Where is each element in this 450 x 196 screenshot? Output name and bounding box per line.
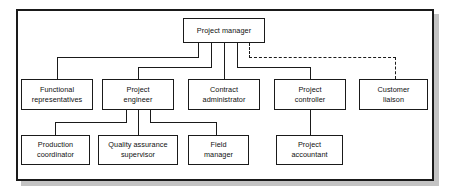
edge-pm-controller-seg-down xyxy=(237,43,238,68)
edge-engineer-field-seg-across xyxy=(150,122,217,123)
edge-pm-customer-dashed-seg-down xyxy=(249,43,250,58)
edge-pm-contract-seg-down xyxy=(224,43,225,79)
node-contract-administrator[interactable]: Contract administrator xyxy=(188,79,260,110)
node-project-accountant[interactable]: Project accountant xyxy=(276,135,343,165)
edge-controller-accountant-seg-down xyxy=(310,110,311,135)
node-project-engineer-label: Project engineer xyxy=(122,85,155,104)
edge-engineer-field-seg-drop xyxy=(216,122,217,135)
edge-engineer-quality-seg-down xyxy=(138,110,139,135)
edge-engineer-production-seg-across xyxy=(55,122,127,123)
edge-pm-engineer-seg-down xyxy=(211,43,212,68)
node-customer-liaison-label: Customer liaison xyxy=(375,85,411,104)
node-project-manager[interactable]: Project manager xyxy=(183,18,265,43)
node-field-manager[interactable]: Field manager xyxy=(188,135,249,165)
edge-pm-customer-dashed-seg-across xyxy=(249,57,396,58)
node-quality-assurance-supervisor[interactable]: Quality assurance supervisor xyxy=(98,135,178,165)
node-project-accountant-label: Project accountant xyxy=(289,140,329,159)
node-field-manager-label: Field manager xyxy=(202,140,235,159)
node-production-coordinator-label: Production coordinator xyxy=(35,140,76,159)
node-project-controller-label: Project controller xyxy=(293,85,328,104)
edge-pm-functional-seg-drop xyxy=(57,57,58,79)
edge-pm-controller-seg-drop xyxy=(310,67,311,79)
org-chart-figure: Project manager Functional representativ… xyxy=(0,0,450,196)
node-production-coordinator[interactable]: Production coordinator xyxy=(21,135,90,165)
node-contract-administrator-label: Contract administrator xyxy=(201,85,248,104)
node-project-manager-label: Project manager xyxy=(195,26,253,36)
node-project-controller[interactable]: Project controller xyxy=(274,79,346,110)
edge-pm-customer-dashed-seg-drop xyxy=(395,57,396,79)
edge-engineer-production-seg-drop xyxy=(55,122,56,135)
node-quality-assurance-supervisor-label: Quality assurance supervisor xyxy=(106,140,169,159)
edge-pm-engineer-seg-across xyxy=(138,67,212,68)
node-functional-representatives-label: Functional representatives xyxy=(30,85,85,104)
edge-pm-controller-seg-across xyxy=(237,67,311,68)
node-customer-liaison[interactable]: Customer liaison xyxy=(359,79,428,110)
node-project-engineer[interactable]: Project engineer xyxy=(102,79,174,110)
edge-pm-functional-seg-across xyxy=(57,57,199,58)
edge-pm-functional-seg-down xyxy=(198,43,199,58)
edge-pm-engineer-seg-drop xyxy=(138,67,139,79)
node-functional-representatives[interactable]: Functional representatives xyxy=(21,79,93,110)
